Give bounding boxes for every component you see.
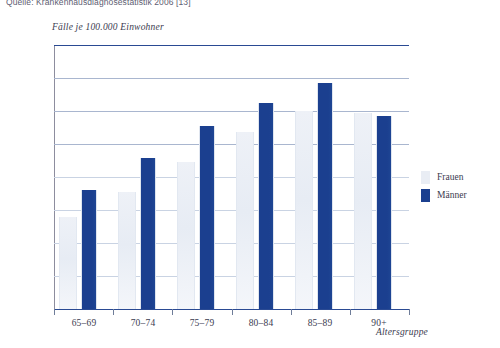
x-axis-tick	[409, 309, 410, 315]
x-axis-tick	[350, 309, 351, 315]
x-axis-tick	[291, 309, 292, 315]
bar-frauen-85–89	[295, 111, 313, 309]
x-axis-tick	[54, 309, 55, 315]
y-axis-title: Fälle je 100.000 Einwohner	[52, 22, 164, 32]
bar-männer-85–89	[317, 83, 333, 309]
legend-label-frauen: Frauen	[437, 172, 463, 182]
legend-swatch-maenner	[421, 189, 430, 202]
bar-frauen-70–74	[118, 192, 136, 309]
x-axis-tick	[113, 309, 114, 315]
bar-frauen-75–79	[177, 162, 195, 309]
chart-figure: Quelle: Krankenhausdiagnosestatistik 200…	[0, 0, 500, 348]
gridline	[54, 111, 409, 112]
chart-legend: Frauen Männer	[421, 168, 467, 204]
x-axis-tick	[172, 309, 173, 315]
legend-item-frauen: Frauen	[421, 168, 467, 186]
bar-frauen-90+	[354, 113, 372, 309]
bar-frauen-80–84	[236, 132, 254, 309]
plot-area	[54, 45, 409, 309]
x-axis-tick	[232, 309, 233, 315]
bar-männer-70–74	[140, 158, 156, 309]
bar-frauen-65–69	[59, 217, 77, 309]
legend-swatch-frauen	[421, 171, 430, 184]
gridline	[54, 78, 409, 79]
legend-item-maenner: Männer	[421, 186, 467, 204]
gridline	[54, 45, 409, 46]
bar-männer-90+	[376, 116, 392, 309]
legend-label-maenner: Männer	[437, 190, 467, 200]
bar-männer-65–69	[81, 190, 97, 309]
x-axis-title: Altersgruppe	[376, 327, 428, 337]
bar-männer-80–84	[258, 103, 274, 309]
source-note: Quelle: Krankenhausdiagnosestatistik 200…	[6, 0, 191, 7]
bar-männer-75–79	[199, 126, 215, 309]
